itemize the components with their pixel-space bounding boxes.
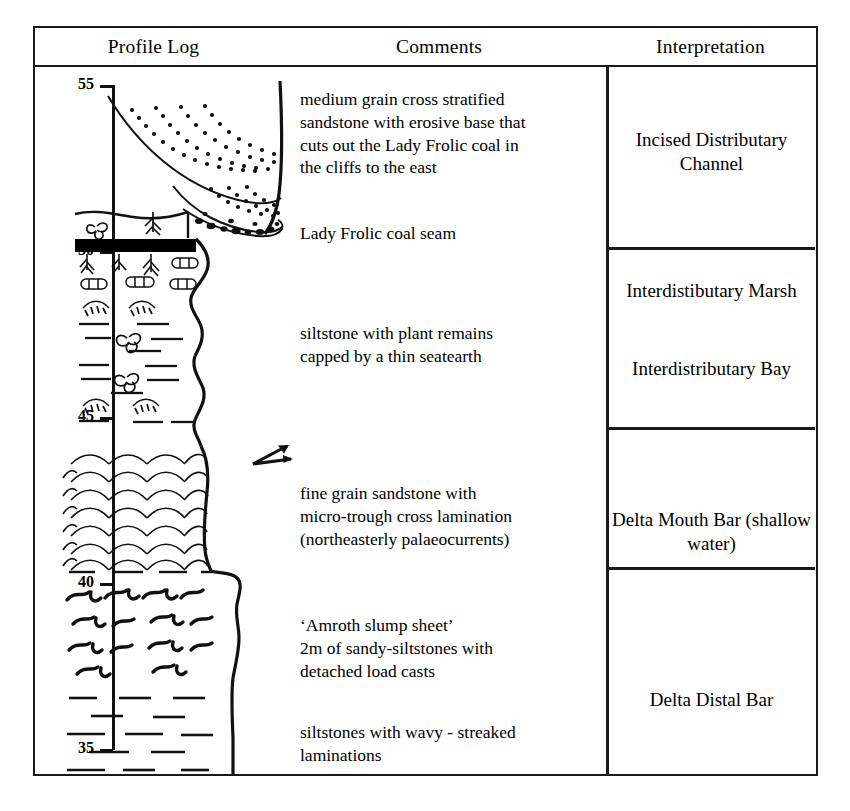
column-header-interpretation: Interpretation: [606, 28, 815, 65]
interpretation-interdistributary-bay: Interdistributary Bay: [608, 357, 815, 381]
foreset-dots-set-4: [203, 104, 276, 156]
siltstone-dash-pattern: [79, 324, 195, 422]
trough-lamina-row-7: [63, 559, 208, 570]
interpretation-divider-distal-bar: [606, 567, 815, 570]
interpretation-interdistributary-marsh: Interdistibutary Marsh: [608, 279, 815, 303]
interpretation-delta-mouth-bar: Delta Mouth Bar (shallow water): [608, 508, 815, 556]
rootlet-symbol: [145, 212, 161, 235]
slump-contortion-symbol: [67, 590, 212, 676]
unit-slump-sheet: [67, 571, 240, 678]
interpretation-divider-mouth-bar: [606, 427, 815, 430]
plant-fossil-symbol: [115, 334, 141, 393]
ironstone-nodule-symbol: [81, 258, 198, 289]
shell-fossil-symbol: [83, 399, 159, 414]
plant-fossil-symbol: [87, 223, 107, 239]
unit-seatearth: [75, 212, 188, 239]
palaeocurrent-arrow: [253, 445, 293, 464]
lithology-log-graphic: [33, 26, 593, 778]
trough-lamina-row-4: [63, 507, 207, 518]
trough-lamina-row-1: [71, 454, 207, 464]
foreset-dots-set-3: [179, 105, 276, 164]
interpretation-incised-channel: Incised Distributary Channel: [608, 128, 815, 176]
interpretation-divider-marsh: [606, 247, 815, 250]
shell-fossil-symbol: [83, 301, 155, 316]
unit-coal-seam: [75, 239, 196, 252]
trough-lamina-row-3: [63, 489, 208, 500]
unit-wavy-siltstone: [67, 678, 233, 774]
unit-micro-trough-sandstone: [63, 446, 211, 571]
foreset-dots-set-6: [227, 186, 280, 215]
trough-lamina-row-2: [63, 471, 208, 482]
unit-cross-stratified-sandstone: [108, 81, 282, 234]
siltstone-dash-pattern: [67, 698, 213, 770]
unit-siltstone-plant-shells: [79, 301, 204, 446]
trough-lamina-row-6: [63, 543, 207, 554]
profile-log-figure: Profile Log Comments Interpretation Inci…: [0, 0, 850, 811]
interpretation-delta-distal-bar: Delta Distal Bar: [608, 688, 815, 712]
trough-lamina-row-5: [63, 525, 207, 536]
